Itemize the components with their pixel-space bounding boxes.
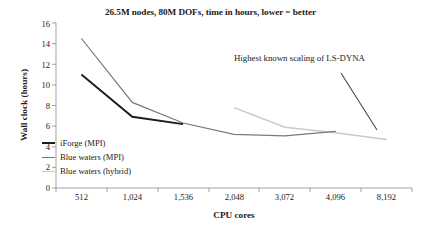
legend-item-blue-waters-hybrid[interactable]: Blue waters (hybrid) bbox=[42, 164, 131, 178]
legend-swatch-blue-waters-mpi bbox=[42, 157, 55, 158]
chart-legend: iForge (MPI) Blue waters (MPI) Blue wate… bbox=[42, 136, 131, 178]
annotation-leader-line bbox=[341, 73, 377, 130]
legend-label-blue-waters-mpi: Blue waters (MPI) bbox=[60, 152, 124, 162]
chart-figure: 26.5M nodes, 80M DOFs, time in hours, lo… bbox=[0, 0, 421, 229]
plot-area bbox=[0, 0, 421, 229]
legend-swatch-blue-waters-hybrid bbox=[42, 171, 55, 172]
annotation-label: Highest known scaling of LS-DYNA bbox=[234, 53, 365, 63]
legend-item-iforge-mpi[interactable]: iForge (MPI) bbox=[42, 136, 131, 150]
legend-label-blue-waters-hybrid: Blue waters (hybrid) bbox=[60, 166, 131, 176]
x-tick-marks bbox=[56, 188, 412, 192]
legend-item-blue-waters-mpi[interactable]: Blue waters (MPI) bbox=[42, 150, 131, 164]
legend-label-iforge-mpi: iForge (MPI) bbox=[60, 138, 105, 148]
legend-swatch-iforge-mpi bbox=[42, 142, 55, 144]
